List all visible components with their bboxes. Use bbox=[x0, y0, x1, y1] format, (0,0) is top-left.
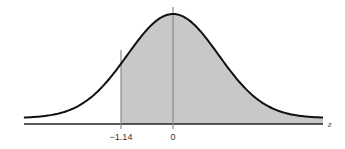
shaded-area-right-of-neg-1-14 bbox=[121, 14, 323, 124]
normal-distribution-chart: −1.14 0 z bbox=[0, 0, 345, 149]
tick-label-neg-1-14: −1.14 bbox=[110, 132, 133, 142]
tick-label-zero: 0 bbox=[170, 132, 175, 142]
z-axis-label: z bbox=[327, 119, 332, 129]
